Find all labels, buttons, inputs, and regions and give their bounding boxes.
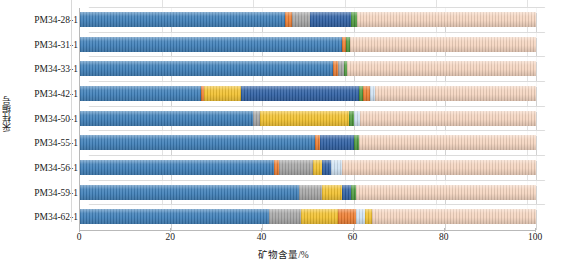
- bar-segment[interactable]: [299, 185, 322, 200]
- x-tick-mark: [261, 228, 262, 232]
- bar-row: [80, 135, 536, 150]
- bar-segment[interactable]: [80, 12, 285, 27]
- bar-segment[interactable]: [338, 61, 345, 76]
- bar-row: [80, 86, 536, 101]
- stacked-bar[interactable]: [80, 37, 536, 52]
- bar-segment[interactable]: [80, 185, 299, 200]
- category-label: PM34-42-1: [18, 89, 78, 99]
- bar-segment[interactable]: [80, 111, 253, 126]
- x-tick-mark: [353, 228, 354, 232]
- category-label: PM34-50-1: [18, 114, 78, 124]
- category-label: PM34-59-1: [18, 188, 78, 198]
- bar-segment[interactable]: [292, 12, 310, 27]
- bar-row: [80, 209, 536, 224]
- bar-segment[interactable]: [372, 209, 536, 224]
- bar-segment[interactable]: [331, 160, 342, 175]
- bar-segment[interactable]: [342, 160, 536, 175]
- bar-segment[interactable]: [365, 209, 372, 224]
- x-axis-tick-labels: 020406080100: [79, 232, 535, 246]
- bar-row: [80, 61, 536, 76]
- bar-segment[interactable]: [279, 160, 313, 175]
- stacked-bar[interactable]: [80, 61, 536, 76]
- bar-segment[interactable]: [354, 111, 361, 126]
- bar-segment[interactable]: [241, 86, 360, 101]
- bar-segment[interactable]: [356, 209, 365, 224]
- category-label: PM34-31-1: [18, 40, 78, 50]
- bar-segment[interactable]: [80, 37, 342, 52]
- bar-row: [80, 37, 536, 52]
- stacked-bar[interactable]: [80, 111, 536, 126]
- bar-segment[interactable]: [253, 111, 260, 126]
- bar-segment[interactable]: [313, 160, 321, 175]
- category-label: PM34-55-1: [18, 138, 78, 148]
- bar-row: [80, 12, 536, 27]
- bar-segment[interactable]: [322, 160, 331, 175]
- bar-row: [80, 160, 536, 175]
- category-label: PM34-62-1: [18, 212, 78, 222]
- bar-segment[interactable]: [310, 12, 351, 27]
- x-tick-label: 100: [528, 232, 542, 243]
- bar-segment[interactable]: [80, 160, 274, 175]
- stacked-bar[interactable]: [80, 160, 536, 175]
- bar-row: [80, 185, 536, 200]
- bar-segment[interactable]: [363, 86, 370, 101]
- bar-segment[interactable]: [322, 185, 343, 200]
- bar-segment[interactable]: [260, 111, 349, 126]
- bar-segment[interactable]: [347, 61, 536, 76]
- stacked-bar[interactable]: [80, 86, 536, 101]
- category-label: PM34-56-1: [18, 163, 78, 173]
- stacked-bar[interactable]: [80, 135, 536, 150]
- bar-segment[interactable]: [356, 185, 536, 200]
- x-tick-mark: [444, 228, 445, 232]
- x-tick-mark: [535, 228, 536, 232]
- y-axis-title: 采样编号: [1, 96, 17, 132]
- bar-segment[interactable]: [359, 135, 536, 150]
- stacked-bar[interactable]: [80, 209, 536, 224]
- bar-segment[interactable]: [80, 61, 333, 76]
- bar-segment[interactable]: [357, 12, 536, 27]
- stacked-bar-chart: 采样编号 PM34-28-1PM34-31-1PM34-33-1PM34-42-…: [0, 0, 567, 275]
- x-tick-label: 0: [77, 232, 82, 243]
- stacked-bar[interactable]: [80, 185, 536, 200]
- bar-segment[interactable]: [301, 209, 337, 224]
- bar-segment[interactable]: [360, 111, 536, 126]
- gridline: [536, 8, 537, 230]
- x-axis-title: 矿物含量/%: [0, 250, 567, 261]
- plot-area: [79, 8, 536, 231]
- bar-segment[interactable]: [342, 185, 351, 200]
- bar-segment[interactable]: [375, 86, 536, 101]
- category-axis-labels: PM34-28-1PM34-31-1PM34-33-1PM34-42-1PM34…: [18, 8, 78, 230]
- bar-segment[interactable]: [285, 12, 292, 27]
- bar-segment[interactable]: [80, 86, 201, 101]
- x-tick-label: 60: [348, 232, 358, 243]
- x-tick-label: 40: [257, 232, 267, 243]
- bar-segment[interactable]: [80, 135, 315, 150]
- x-tick-label: 20: [165, 232, 175, 243]
- bar-segment[interactable]: [204, 86, 240, 101]
- bar-segment[interactable]: [269, 209, 301, 224]
- x-tick-mark: [170, 228, 171, 232]
- bar-segment[interactable]: [350, 37, 536, 52]
- bar-segment[interactable]: [80, 209, 269, 224]
- bar-row: [80, 111, 536, 126]
- bar-segment[interactable]: [320, 135, 354, 150]
- category-label: PM34-28-1: [18, 15, 78, 25]
- x-tick-mark: [79, 228, 80, 232]
- category-label: PM34-33-1: [18, 64, 78, 74]
- bar-segment[interactable]: [338, 209, 356, 224]
- x-tick-label: 80: [439, 232, 449, 243]
- stacked-bar[interactable]: [80, 12, 536, 27]
